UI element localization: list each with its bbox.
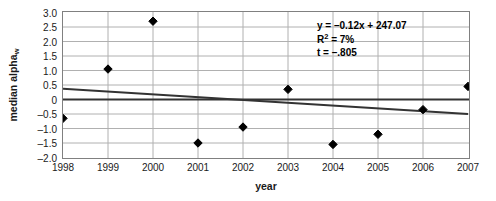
y-axis-tick-label: –0.5: [38, 109, 57, 120]
x-axis-tick-label: 1999: [97, 162, 119, 173]
annotation-t-statistic: t = –.805: [317, 46, 407, 60]
y-axis-tick-label: –1.5: [38, 138, 57, 149]
annotation-equation: y = –0.12x + 247.07: [317, 19, 407, 33]
x-axis-tick-label: 2005: [367, 162, 389, 173]
y-axis-title: median alphaw: [0, 0, 26, 170]
y-axis-tick-label: 2.5: [43, 22, 57, 33]
trendline-path: [63, 89, 468, 114]
x-axis-tick-label: 2001: [187, 162, 209, 173]
data-point-marker: [104, 65, 112, 73]
y-axis-tick-label: 1.0: [43, 65, 57, 76]
x-axis-tick-label: 2002: [232, 162, 254, 173]
x-axis-title: year: [62, 180, 470, 192]
regression-annotation: y = –0.12x + 247.07 R2 = 7% t = –.805: [317, 19, 407, 60]
plot-svg: [63, 12, 469, 158]
x-axis-tick-label: 2006: [412, 162, 434, 173]
x-axis-tick-label: 2007: [457, 162, 479, 173]
data-point-marker: [149, 17, 157, 25]
data-point-marker: [239, 123, 247, 131]
x-axis-tick-label: 1998: [52, 162, 74, 173]
y-axis-tick-label: 0.5: [43, 80, 57, 91]
data-point-marker: [194, 139, 202, 147]
data-point-marker: [464, 82, 469, 90]
trendline: [63, 89, 468, 114]
y-axis-tick-labels: 3.02.52.01.51.00.50–0.5–1.0–1.5–2.0: [26, 11, 60, 159]
data-point-marker: [374, 130, 382, 138]
y-axis-tick-label: 1.5: [43, 51, 57, 62]
y-axis-title-text: median alphaw: [7, 49, 19, 122]
annotation-r-squared-value: = 7%: [328, 34, 354, 45]
y-axis-tick-label: 2.0: [43, 36, 57, 47]
y-axis-title-main: median alpha: [7, 54, 19, 121]
y-axis-tick-label: –1.0: [38, 123, 57, 134]
y-axis-tick-label: 0: [51, 94, 57, 105]
x-axis-tick-label: 2003: [277, 162, 299, 173]
x-axis-tick-labels: 1998199920002001200220032004200520062007: [62, 162, 470, 178]
x-axis-tick-label: 2000: [142, 162, 164, 173]
horizontal-gridlines: [63, 27, 469, 143]
plot-area: [62, 11, 470, 159]
chart-container: median alphaw 3.02.52.01.51.00.50–0.5–1.…: [0, 0, 496, 201]
data-point-marker: [63, 114, 67, 122]
data-point-marker: [419, 105, 427, 113]
annotation-r-squared: R2 = 7%: [317, 33, 407, 47]
x-axis-tick-label: 2004: [322, 162, 344, 173]
y-axis-title-subscript: w: [12, 49, 21, 55]
y-axis-tick-label: 3.0: [43, 7, 57, 18]
data-point-marker: [329, 140, 337, 148]
data-point-marker: [284, 85, 292, 93]
